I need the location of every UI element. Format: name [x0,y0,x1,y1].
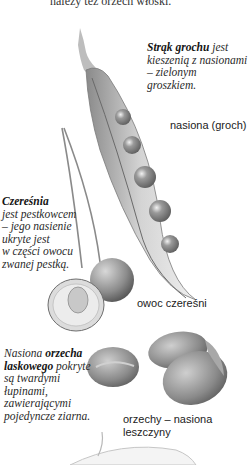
hazelnut-label: orzechy – nasiona leszczyny [123,413,212,439]
pea-seeds-label: nasiona (groch) [170,119,246,132]
cherry-caption-bold: Czereśnia [2,195,49,207]
cherry-fruit-label: owoc czereśni [137,297,207,310]
hazelnut-caption: Nasiona orzecha laskowego pokryte są twa… [4,347,100,423]
cherry-caption: Czereśnia jest pestkowcem – jego nasieni… [2,195,92,271]
pea-caption: Strąk grochu jest kieszenią z nasionami … [147,41,249,91]
pea-caption-bold: Strąk grochu [147,41,209,53]
hazelnut-drawing [87,327,235,414]
